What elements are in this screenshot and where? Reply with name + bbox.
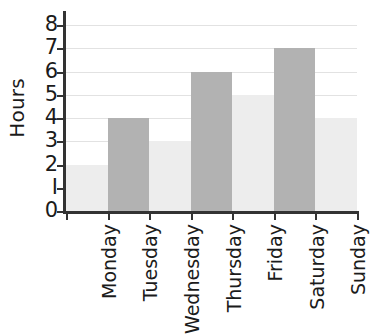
y-axis-tick-mark <box>57 188 65 190</box>
x-axis-tick-label[interactable]: Friday <box>264 224 286 336</box>
x-axis-tick-mark <box>315 211 317 220</box>
y-axis-tick-mark <box>57 72 65 74</box>
y-axis-tick-mark <box>57 95 65 97</box>
x-axis-tick-mark <box>66 211 68 220</box>
y-axis-title-label: Hours <box>5 78 29 138</box>
x-axis-tick-label[interactable]: Thursday <box>223 224 245 336</box>
y-axis-tick-mark <box>57 211 65 213</box>
y-axis-tick-label: 3 <box>34 130 58 151</box>
y-axis-tick-mark <box>57 141 65 143</box>
y-axis-tick-labels: 0I2345678 <box>34 0 60 226</box>
bar[interactable] <box>274 48 316 211</box>
plot-area <box>66 25 357 211</box>
x-axis-tick-label[interactable]: Wednesday <box>181 224 203 336</box>
x-axis-tick-mark <box>232 211 234 220</box>
y-axis-tick-label: 6 <box>34 61 58 82</box>
y-axis-tick-mark <box>57 25 65 27</box>
bar-chart: Hours 0I2345678 MondayTuesdayWednesdayTh… <box>0 0 371 336</box>
y-axis-tick-label: 7 <box>34 37 58 58</box>
x-axis-tick-mark <box>274 211 276 220</box>
y-axis-tick-mark <box>57 165 65 167</box>
y-axis-tick-label: 8 <box>34 14 58 35</box>
x-axis-tick-label[interactable]: Tuesday <box>139 224 161 336</box>
x-axis-tick-mark <box>149 211 151 220</box>
y-axis-tick-label: 5 <box>34 84 58 105</box>
bar[interactable] <box>108 118 150 211</box>
bar[interactable] <box>149 141 191 211</box>
bar[interactable] <box>191 72 233 212</box>
x-axis-tick-label[interactable]: Saturday <box>306 224 328 336</box>
x-axis-tick-label[interactable]: Monday <box>98 224 120 336</box>
y-axis-tick-mark <box>57 118 65 120</box>
bars <box>66 25 357 211</box>
y-axis-title: Hours <box>0 0 34 215</box>
x-axis-tick-mark <box>191 211 193 220</box>
x-axis-tick-mark <box>108 211 110 220</box>
bar[interactable] <box>232 95 274 211</box>
y-axis-tick-label: I <box>34 177 58 198</box>
y-axis-tick-label: 0 <box>34 200 58 221</box>
bar[interactable] <box>315 118 357 211</box>
bar[interactable] <box>66 165 108 212</box>
y-axis-tick-label: 4 <box>34 107 58 128</box>
y-axis-line <box>63 11 66 213</box>
x-axis-tick-mark <box>357 211 359 220</box>
y-axis-tick-mark <box>57 48 65 50</box>
y-axis-tick-label: 2 <box>34 154 58 175</box>
x-axis-tick-label[interactable]: Sunday <box>347 224 369 336</box>
